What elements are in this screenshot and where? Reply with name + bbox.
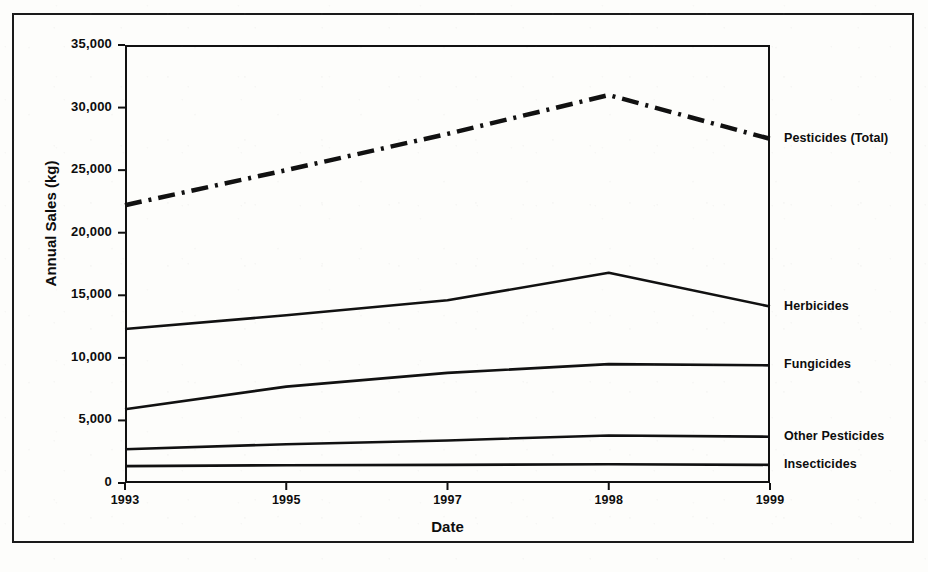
series-label-fungicides: Fungicides bbox=[784, 357, 851, 371]
x-tick-label: 1999 bbox=[730, 493, 810, 507]
y-tick-label: 25,000 bbox=[10, 161, 112, 176]
y-axis-ticks bbox=[118, 45, 125, 483]
series-line-pesticides-total bbox=[125, 95, 770, 205]
chart-canvas bbox=[0, 0, 928, 572]
y-axis-title: Annual Sales (kg) bbox=[42, 114, 59, 334]
series-line-fungicides bbox=[125, 364, 770, 409]
series-line-other-pesticides bbox=[125, 435, 770, 449]
x-tick-label: 1998 bbox=[569, 493, 649, 507]
chart-figure: 05,00010,00015,00020,00025,00030,00035,0… bbox=[0, 0, 928, 572]
series-label-pesticides-total: Pesticides (Total) bbox=[784, 131, 888, 145]
series-line-herbicides bbox=[125, 273, 770, 329]
series-label-insecticides: Insecticides bbox=[784, 457, 857, 471]
y-tick-label: 35,000 bbox=[10, 36, 112, 51]
y-tick-label: 20,000 bbox=[10, 224, 112, 239]
y-tick-label: 15,000 bbox=[10, 286, 112, 301]
series-label-other-pesticides: Other Pesticides bbox=[784, 429, 884, 443]
x-axis-title: Date bbox=[125, 518, 770, 535]
x-tick-label: 1997 bbox=[408, 493, 488, 507]
x-tick-label: 1993 bbox=[85, 493, 165, 507]
y-tick-label: 10,000 bbox=[10, 349, 112, 364]
x-tick-label: 1995 bbox=[246, 493, 326, 507]
y-tick-label: 5,000 bbox=[10, 411, 112, 426]
series-line-insecticides bbox=[125, 464, 770, 466]
y-tick-label: 30,000 bbox=[10, 99, 112, 114]
y-tick-label: 0 bbox=[10, 474, 112, 489]
series-lines bbox=[125, 95, 770, 466]
x-axis-ticks bbox=[125, 483, 770, 490]
series-label-herbicides: Herbicides bbox=[784, 299, 849, 313]
